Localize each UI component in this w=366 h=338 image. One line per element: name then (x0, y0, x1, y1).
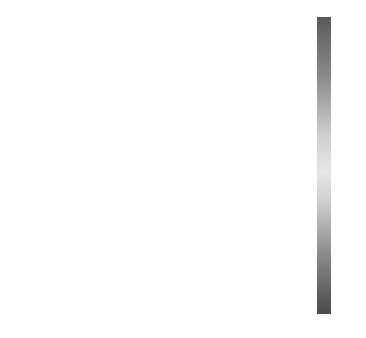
colorbar (317, 17, 331, 314)
